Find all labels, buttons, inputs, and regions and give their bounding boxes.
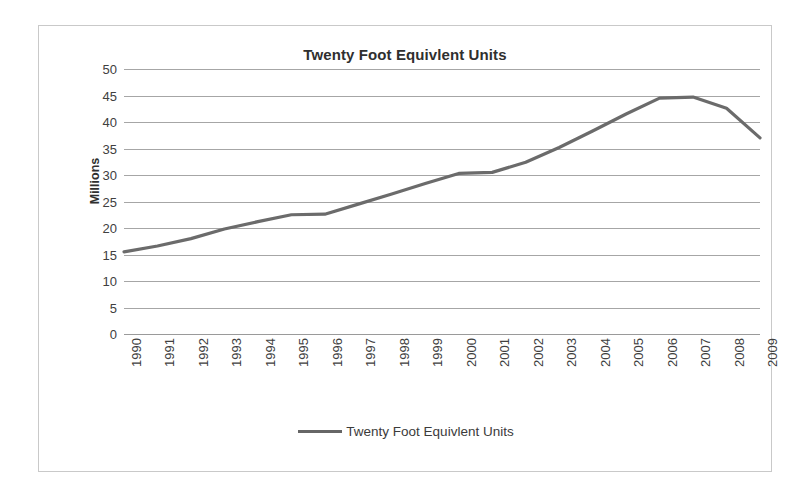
x-tick-label-2008: 2008 <box>732 338 747 367</box>
x-tick-label-2004: 2004 <box>598 338 613 367</box>
y-tick-label-15: 15 <box>103 248 117 261</box>
x-tick-label-1994: 1994 <box>263 338 278 367</box>
x-tick-label-2009: 2009 <box>765 338 780 367</box>
chart-frame: Twenty Foot Equivlent Units Millions 504… <box>38 25 772 472</box>
x-axis-tick-labels: 1990199119921993199419951996199719981999… <box>124 338 760 400</box>
x-tick-label-2006: 2006 <box>665 338 680 367</box>
series-line-twenty-foot-equivlent-units <box>124 69 760 334</box>
y-tick-label-5: 5 <box>110 301 117 314</box>
x-tick-label-1995: 1995 <box>296 338 311 367</box>
plot-area <box>124 69 760 334</box>
x-tick-label-2003: 2003 <box>564 338 579 367</box>
x-tick-label-1993: 1993 <box>229 338 244 367</box>
x-tick-label-1991: 1991 <box>162 338 177 367</box>
x-tick-label-2007: 2007 <box>698 338 713 367</box>
y-tick-label-30: 30 <box>103 169 117 182</box>
y-tick-label-0: 0 <box>110 328 117 341</box>
chart-legend: Twenty Foot Equivlent Units <box>39 424 773 439</box>
y-axis-tick-labels: 50454035302520151050 <box>79 69 117 334</box>
x-tick-label-1999: 1999 <box>430 338 445 367</box>
legend-line-swatch <box>298 430 342 433</box>
y-tick-label-25: 25 <box>103 195 117 208</box>
x-tick-label-1998: 1998 <box>397 338 412 367</box>
x-tick-label-1996: 1996 <box>330 338 345 367</box>
x-tick-label-2005: 2005 <box>631 338 646 367</box>
x-tick-label-2002: 2002 <box>531 338 546 367</box>
x-tick-label-1992: 1992 <box>196 338 211 367</box>
y-tick-label-40: 40 <box>103 116 117 129</box>
y-tick-label-45: 45 <box>103 89 117 102</box>
y-tick-label-50: 50 <box>103 63 117 76</box>
y-tick-label-20: 20 <box>103 222 117 235</box>
legend-label: Twenty Foot Equivlent Units <box>346 424 513 439</box>
plot-wrapper: Millions 50454035302520151050 1990199119… <box>39 26 773 473</box>
x-tick-label-2000: 2000 <box>464 338 479 367</box>
x-tick-label-1997: 1997 <box>363 338 378 367</box>
gridline-0 <box>124 334 760 335</box>
y-tick-label-10: 10 <box>103 275 117 288</box>
x-tick-label-2001: 2001 <box>497 338 512 367</box>
y-tick-label-35: 35 <box>103 142 117 155</box>
x-tick-label-1990: 1990 <box>129 338 144 367</box>
